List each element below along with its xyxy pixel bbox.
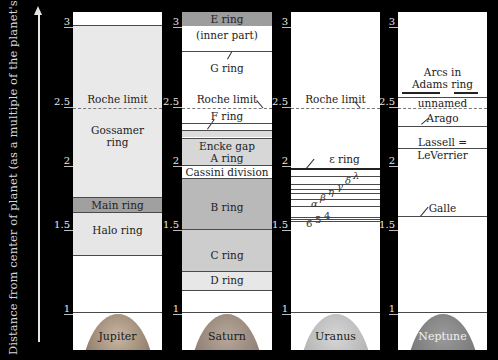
ring-boundary	[182, 271, 272, 272]
galle-label: Galle	[398, 202, 487, 214]
ring-boundary	[182, 290, 272, 291]
gossamer-ring-label-1: Gossamer	[73, 124, 162, 136]
adams-arc-left	[402, 92, 440, 94]
ring-line-lambda	[291, 176, 380, 177]
axis-label: Distance from center of planet (as a mul…	[6, 0, 20, 355]
tick-2-uranus: 2	[270, 155, 288, 166]
halo-ring-label: Halo ring	[73, 224, 162, 236]
a-ring-label: A ring	[182, 152, 272, 164]
tick-3-neptune: 3	[377, 16, 395, 27]
ring-boundary	[73, 255, 162, 256]
band-gossamer-ring	[73, 26, 162, 208]
ring-boundary	[182, 130, 272, 131]
tick-2.5-saturn: 2.5	[161, 96, 179, 107]
c-ring-label: C ring	[182, 249, 272, 261]
ring-label-4: 4	[324, 210, 330, 221]
roche-limit-line	[398, 108, 487, 109]
arago-label: Arago	[398, 112, 487, 124]
roche-limit-line	[73, 108, 162, 109]
column-neptune: Arcs in Adams ring unnamed Arago Lassell…	[398, 12, 487, 350]
ring-boundary	[182, 51, 272, 52]
tick-1.5-uranus: 1.5	[270, 219, 288, 230]
ring-label-gamma: γ	[337, 181, 343, 192]
tick-2-saturn: 2	[161, 155, 179, 166]
e-ring-inner-part-label: (inner part)	[182, 29, 272, 41]
tick-1.5-jupiter: 1.5	[52, 219, 70, 230]
ring-line-galle	[398, 216, 487, 217]
roche-limit-line	[182, 108, 272, 109]
planet-name-neptune: Neptune	[398, 330, 487, 343]
ring-line-beta	[291, 199, 380, 200]
ring-boundary	[182, 138, 272, 139]
tick-1-uranus: 1	[270, 303, 288, 314]
tick-2-neptune: 2	[377, 155, 395, 166]
ring-label-beta: β	[320, 192, 326, 203]
axis-arrow-line	[38, 12, 40, 342]
roche-limit-label: Roche limit	[73, 93, 162, 105]
ring-boundary	[182, 178, 272, 179]
roche-limit-line	[291, 108, 380, 109]
encke-gap-label: Encke gap	[182, 140, 272, 152]
ring-line-eta	[291, 193, 380, 194]
ring-line-arago	[398, 126, 487, 127]
lassell-label-1: Lassell =	[398, 136, 487, 148]
tick-3-saturn: 3	[161, 16, 179, 27]
roche-limit-label: Roche limit	[291, 93, 380, 105]
ring-boundary	[182, 123, 272, 124]
tick-1-jupiter: 1	[52, 303, 70, 314]
b-ring-label: B ring	[182, 201, 272, 213]
planet-name-jupiter: Jupiter	[73, 330, 162, 343]
ring-line-5	[291, 219, 380, 220]
cassini-division-label: Cassini division	[182, 166, 272, 178]
column-jupiter: Roche limit Gossamer ring Main ring Halo…	[73, 12, 162, 350]
ring-line-epsilon	[291, 168, 380, 170]
planet-surface-line	[182, 312, 272, 313]
epsilon-ring-label: ε ring	[309, 153, 380, 165]
ring-label-5: 5	[315, 214, 321, 225]
ring-line-gamma	[291, 189, 380, 190]
ring-line-alpha	[291, 206, 380, 207]
planet-name-uranus: Uranus	[291, 330, 380, 343]
column-saturn: E ring (inner part) G ring Roche limit F…	[182, 12, 272, 350]
g-ring-label: G ring	[182, 62, 272, 74]
tick-2-jupiter: 2	[52, 155, 70, 166]
ring-boundary	[73, 212, 162, 213]
d-ring-label: D ring	[182, 274, 272, 286]
tick-1.5-neptune: 1.5	[377, 219, 395, 230]
e-ring-label: E ring	[182, 13, 272, 25]
planet-name-saturn: Saturn	[182, 330, 272, 343]
planet-surface-line	[291, 312, 380, 313]
ring-label-delta: δ	[345, 175, 351, 186]
band-outer-a	[182, 130, 272, 137]
ring-boundary	[73, 25, 162, 26]
ring-boundary	[73, 197, 162, 198]
ring-label-eta: η	[328, 186, 334, 197]
ring-label-alpha: α	[311, 198, 318, 209]
ring-boundary	[182, 229, 272, 230]
g-ring-leader	[227, 51, 232, 59]
ring-label-lambda: λ	[353, 170, 359, 181]
axis-arrow-head-icon	[34, 6, 42, 15]
tick-1.5-saturn: 1.5	[161, 219, 179, 230]
tick-1-saturn: 1	[161, 303, 179, 314]
lassell-label-2: LeVerrier	[398, 149, 487, 161]
tick-2.5-jupiter: 2.5	[52, 96, 70, 107]
tick-2.5-uranus: 2.5	[270, 96, 288, 107]
tick-1-neptune: 1	[377, 303, 395, 314]
ring-line-4	[291, 217, 380, 218]
planet-surface-line	[73, 312, 162, 313]
adams-ring-label-2: Adams ring	[398, 78, 487, 90]
ring-line-delta	[291, 184, 380, 185]
planet-surface-line	[398, 312, 487, 313]
main-ring-label: Main ring	[73, 199, 162, 211]
tick-3-jupiter: 3	[52, 16, 70, 27]
column-uranus: Roche limit ε ring λ δ γ η β α 4 5 6 Ura…	[291, 12, 380, 350]
ring-label-6: 6	[306, 218, 312, 229]
f-ring-label: F ring	[182, 110, 272, 122]
adams-ring-label-1: Arcs in	[398, 66, 487, 78]
ring-line-6	[291, 221, 380, 222]
tick-3-uranus: 3	[270, 16, 288, 27]
tick-2.5-neptune: 2.5	[377, 96, 395, 107]
adams-arc-right	[454, 92, 478, 94]
gossamer-ring-label-2: ring	[73, 136, 162, 148]
